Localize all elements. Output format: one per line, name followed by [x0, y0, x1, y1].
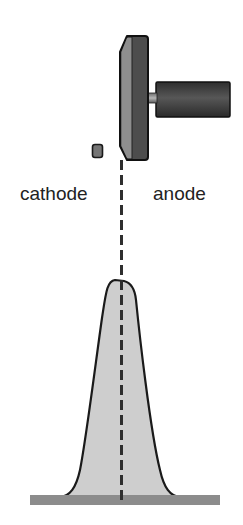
diagram-canvas [0, 0, 243, 525]
cathode-electrode [93, 145, 103, 158]
baseline-bar [30, 495, 220, 505]
electrode-diagram: cathode anode [0, 0, 243, 525]
anode-plate [120, 36, 148, 160]
anode-holder-cylinder [156, 82, 230, 117]
anode-label: anode [153, 184, 206, 203]
cathode-label: cathode [20, 184, 88, 203]
